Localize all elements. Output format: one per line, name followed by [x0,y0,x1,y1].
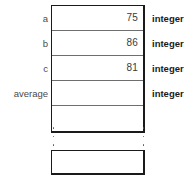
ellipsis-dot [143,127,145,129]
memory-cell-tail[interactable] [51,150,145,175]
variable-name-label: c [0,64,48,74]
type-label: integer [152,89,184,99]
memory-cell-diagram: 75 86 81 a b c average integer integer i… [0,0,196,187]
memory-cell[interactable] [52,81,143,106]
type-label: integer [152,14,184,24]
ellipsis-dot [53,144,55,146]
memory-cell[interactable] [52,106,143,131]
ellipsis-dot [53,127,55,129]
type-label: integer [152,64,184,74]
memory-cell[interactable]: 86 [52,31,143,56]
cell-value: 75 [126,13,138,23]
ellipsis-dot [143,136,145,138]
memory-cell-stack: 75 86 81 [51,5,145,133]
ellipsis-dot [53,136,55,138]
memory-cell[interactable]: 75 [52,6,143,31]
vertical-ellipsis-icon [52,127,55,146]
variable-name-label: a [0,14,48,24]
variable-name-label: average [0,89,48,99]
cell-value: 81 [126,63,138,73]
vertical-ellipsis-icon [142,127,145,146]
type-label: integer [152,39,184,49]
memory-cell[interactable]: 81 [52,56,143,81]
ellipsis-dot [143,144,145,146]
variable-name-label: b [0,39,48,49]
cell-value: 86 [126,38,138,48]
